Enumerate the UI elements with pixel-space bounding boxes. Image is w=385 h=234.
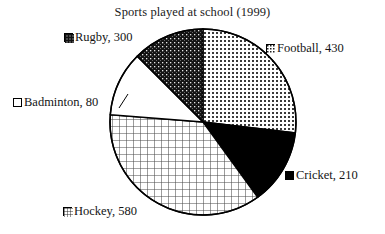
- cricket-swatch-icon: [285, 171, 294, 180]
- pie-label-rugby: Rugby, 300: [64, 30, 133, 44]
- pie-label-hockey-text: Hockey, 580: [74, 204, 137, 218]
- badminton-swatch-icon: [13, 98, 22, 107]
- football-swatch-icon: [266, 44, 275, 53]
- pie-label-football-text: Football, 430: [277, 41, 344, 55]
- pie-label-cricket: Cricket, 210: [285, 168, 358, 182]
- hockey-swatch-icon: [63, 207, 72, 216]
- pie-chart-graphic: [0, 0, 385, 234]
- pie-label-rugby-text: Rugby, 300: [75, 30, 133, 44]
- pie-label-hockey: Hockey, 580: [63, 204, 137, 218]
- pie-label-cricket-text: Cricket, 210: [296, 168, 358, 182]
- pie-chart-figure: Sports played at school (1999): [0, 0, 385, 234]
- pie-label-football: Football, 430: [266, 41, 344, 55]
- rugby-swatch-icon: [64, 33, 73, 42]
- pie-label-badminton-text: Badminton, 80: [24, 95, 98, 109]
- pie-label-badminton: Badminton, 80: [13, 95, 98, 109]
